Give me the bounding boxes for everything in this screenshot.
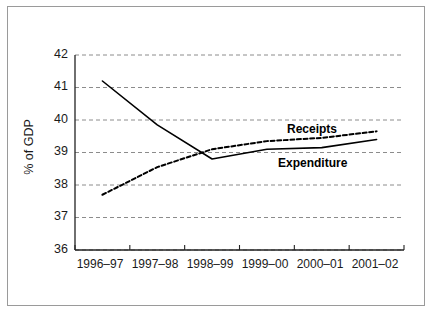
chart-figure: % of GDP 42 41 40 39 38 37 36 1996–97 19… xyxy=(0,0,433,314)
x-tick-marks-group xyxy=(75,245,404,250)
series-label-receipts: Receipts xyxy=(287,122,337,136)
gridlines-group xyxy=(75,55,404,250)
plot-area xyxy=(0,0,433,314)
series-label-expenditure: Expenditure xyxy=(278,156,347,170)
series-group xyxy=(102,81,376,195)
